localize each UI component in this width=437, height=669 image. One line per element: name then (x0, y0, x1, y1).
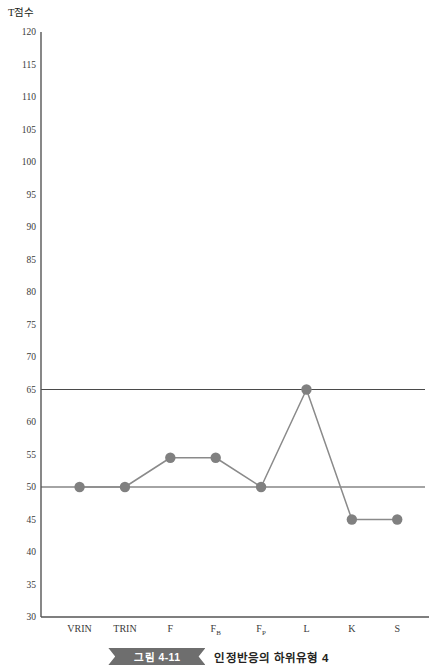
data-point-S[interactable] (392, 514, 402, 524)
figure-number-ribbon: 그림 4-11 (108, 648, 205, 665)
y-axis-tick-label: 75 (27, 320, 37, 330)
x-axis-tick-labels: VRINTRINFFBFPLKS (67, 623, 400, 637)
x-axis-tick-label-S: S (394, 623, 400, 634)
figure-caption: 그림 4-11 인정반응의 하위유형 4 (0, 644, 437, 669)
y-axis-tick-label: 35 (27, 580, 37, 590)
data-series-markers (74, 384, 402, 524)
data-point-TRIN[interactable] (120, 482, 130, 492)
data-point-VRIN[interactable] (74, 482, 84, 492)
data-point-FP[interactable] (256, 482, 266, 492)
y-axis-tick-label: 120 (22, 27, 37, 37)
y-axis-tick-label: 60 (27, 417, 37, 427)
figure-number-label: 그림 4-11 (134, 649, 180, 664)
figure-container: T점수 303540455055606570758085909510010511… (0, 0, 437, 669)
data-point-F[interactable] (165, 453, 175, 463)
data-series-line (80, 390, 398, 520)
x-axis-tick-label-FB: FB (211, 623, 222, 637)
line-chart: T점수 303540455055606570758085909510010511… (0, 0, 437, 640)
data-point-K[interactable] (347, 514, 357, 524)
y-axis-tick-label: 95 (27, 190, 37, 200)
reference-lines (41, 390, 425, 488)
y-axis-title: T점수 (8, 7, 34, 18)
y-axis-tick-label: 45 (27, 515, 37, 525)
y-axis-tick-label: 85 (27, 255, 37, 265)
chart-area: T점수 303540455055606570758085909510010511… (0, 0, 437, 640)
data-point-L[interactable] (301, 384, 311, 394)
series-polyline (80, 390, 398, 520)
y-axis-tick-label: 80 (27, 287, 37, 297)
y-axis-tick-label: 115 (22, 60, 36, 70)
y-axis-tick-label: 105 (22, 125, 37, 135)
x-axis-tick-label-K: K (348, 623, 356, 634)
x-axis-tick-label-L: L (303, 623, 309, 634)
y-axis-tick-label: 90 (27, 222, 37, 232)
y-axis-tick-label: 70 (27, 352, 37, 362)
y-axis-tick-label: 55 (27, 450, 37, 460)
figure-caption-title: 인정반응의 하위유형 4 (214, 649, 328, 665)
y-axis-tick-label: 30 (27, 612, 37, 622)
y-axis-tick-label: 65 (27, 385, 37, 395)
y-axis-tick-label: 110 (22, 92, 36, 102)
y-axis-tick-label: 100 (22, 157, 37, 167)
x-axis-tick-label-FP: FP (256, 623, 266, 637)
y-axis-tick-label: 50 (27, 482, 37, 492)
y-axis-tick-labels: 3035404550556065707580859095100105110115… (22, 27, 37, 622)
x-axis-tick-label-VRIN: VRIN (67, 623, 91, 634)
y-axis-tick-label: 40 (27, 547, 37, 557)
x-axis-tick-label-TRIN: TRIN (113, 623, 136, 634)
x-axis-tick-label-F: F (168, 623, 174, 634)
data-point-FB[interactable] (211, 453, 221, 463)
